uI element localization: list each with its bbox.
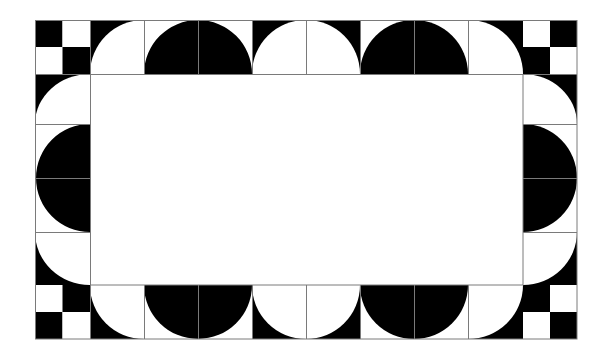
corner-top-right	[523, 20, 577, 74]
corner-top-left	[35, 20, 90, 74]
left-edge	[35, 74, 90, 285]
right-edge	[523, 74, 577, 285]
pattern-canvas	[0, 0, 608, 354]
corner-bottom-right	[523, 285, 577, 339]
border-pattern-figure: Tiled border pattern of checkerboard cor…	[0, 0, 608, 354]
corner-bottom-left	[35, 285, 90, 339]
